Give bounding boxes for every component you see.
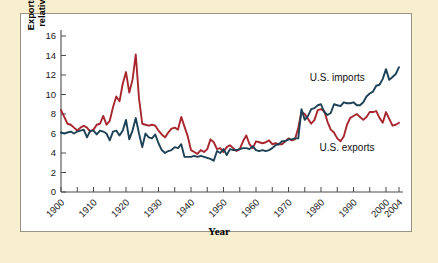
y-tick-label: 8 xyxy=(51,108,56,119)
x-tick-label: 1990 xyxy=(336,197,359,220)
x-tick-label: 1920 xyxy=(109,197,132,220)
x-tick-label: 1960 xyxy=(239,197,262,220)
x-tick-label: 1910 xyxy=(76,197,99,220)
x-tick-label: 1940 xyxy=(174,197,197,220)
series-label-u-s-exports: U.S. exports xyxy=(319,142,374,153)
y-tick-label: 4 xyxy=(51,147,56,158)
y-tick-label: 12 xyxy=(45,69,56,80)
x-axis-ticks xyxy=(61,187,399,192)
y-tick-label: 0 xyxy=(51,186,56,197)
x-tick-label: 1980 xyxy=(304,197,327,220)
series-annotations: U.S. importsU.S. exports xyxy=(310,72,375,153)
x-tick-label: 1970 xyxy=(271,197,294,220)
y-tick-label: 10 xyxy=(45,89,56,100)
series-line-u-s-exports xyxy=(61,55,399,154)
chart-panel: 0246810121416 U.S. importsU.S. exports 1… xyxy=(20,13,412,232)
x-axis-tick-labels: 1900191019201930194019501960197019801990… xyxy=(44,197,405,220)
x-axis-title: Year xyxy=(0,225,438,237)
y-tick-label: 2 xyxy=(51,167,56,178)
x-tick-label: 1930 xyxy=(141,197,164,220)
y-axis-title: Exports and imports relative to GDP (%) xyxy=(24,0,50,62)
y-tick-label: 6 xyxy=(51,128,56,139)
x-tick-label: 1950 xyxy=(206,197,229,220)
chart-plot-area: 0246810121416 U.S. importsU.S. exports 1… xyxy=(21,14,410,230)
figure-root: 0246810121416 U.S. importsU.S. exports 1… xyxy=(0,0,438,263)
y-axis-title-text: Exports and imports relative to GDP (%) xyxy=(26,0,48,30)
series-label-u-s-imports: U.S. imports xyxy=(310,72,365,83)
x-tick-label: 1900 xyxy=(44,197,67,220)
